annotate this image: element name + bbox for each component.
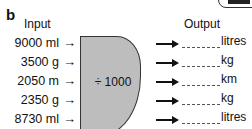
output-unit: kg (221, 53, 234, 67)
output-row: kg (156, 91, 234, 105)
output-unit: km (221, 72, 237, 86)
input-value: 9000 ml (15, 36, 59, 50)
output-unit: litres (221, 34, 246, 48)
input-value: 8730 ml (15, 112, 59, 126)
output-unit: litres (221, 110, 246, 124)
arrow-right-icon (156, 77, 180, 86)
input-row: 2350 g → (21, 92, 76, 107)
section-label: b (6, 6, 15, 23)
arrow-right-icon: → (63, 92, 76, 107)
arrow-right-icon (156, 58, 180, 67)
arrow-right-icon: → (63, 54, 76, 69)
input-header: Input (24, 17, 51, 31)
input-value: 3500 g (21, 55, 59, 69)
output-row: kg (156, 53, 234, 67)
arrow-right-icon (156, 39, 180, 48)
input-value: 2050 m (17, 74, 59, 88)
input-row: 3500 g → (21, 54, 76, 69)
output-row: litres (156, 34, 246, 48)
output-unit: kg (221, 91, 234, 105)
answer-blank[interactable] (182, 57, 220, 67)
input-value: 2350 g (21, 93, 59, 107)
arrow-right-icon: → (63, 35, 76, 50)
arrow-right-icon (156, 115, 180, 124)
answer-blank[interactable] (182, 95, 220, 105)
arrow-right-icon (156, 96, 180, 105)
output-row: km (156, 72, 237, 86)
arrow-right-icon: → (63, 111, 76, 126)
answer-blank[interactable] (182, 38, 220, 48)
output-row: litres (156, 110, 246, 124)
answer-blank[interactable] (182, 76, 220, 86)
input-row: 2050 m → (17, 73, 76, 88)
answer-blank[interactable] (182, 114, 220, 124)
input-row: 9000 ml → (15, 35, 76, 50)
input-row: 8730 ml → (15, 111, 76, 126)
output-header: Output (184, 17, 220, 31)
operation-label: ÷ 1000 (88, 75, 138, 89)
arrow-right-icon: → (63, 73, 76, 88)
corner-decoration-bar (228, 0, 250, 4)
